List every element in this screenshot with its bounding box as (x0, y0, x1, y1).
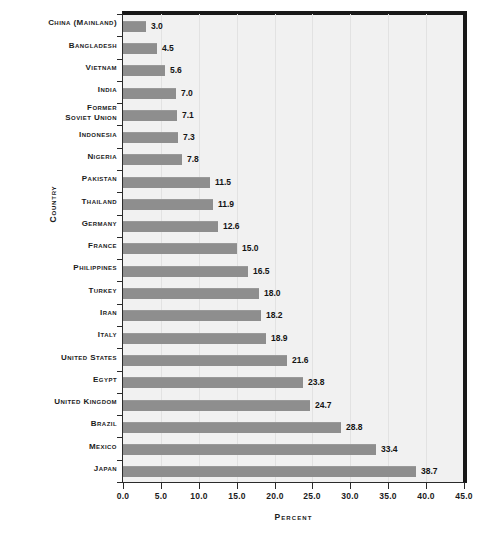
bar-value-label: 15.0 (242, 243, 259, 254)
y-axis-tick (117, 192, 123, 193)
x-axis-tick-label: 20.0 (255, 491, 295, 501)
x-axis-tick (275, 483, 276, 489)
gridline (237, 14, 238, 482)
x-axis-tick (350, 483, 351, 489)
category-label: United Kingdom (6, 397, 117, 407)
bar (123, 288, 259, 299)
category-label: India (6, 85, 117, 95)
y-axis-tick (117, 460, 123, 461)
y-axis-tick (117, 170, 123, 171)
plot-area: 3.04.55.67.07.17.37.811.511.912.615.016.… (123, 14, 464, 482)
bar-value-label: 18.0 (264, 288, 281, 299)
y-axis-tick (117, 148, 123, 149)
bar (123, 444, 376, 455)
bar-value-label: 3.0 (151, 21, 163, 32)
bar-value-label: 7.3 (183, 132, 195, 143)
y-axis-tick (117, 103, 123, 104)
bar (123, 88, 176, 99)
bar (123, 21, 146, 32)
category-label: Former Soviet Union (6, 103, 117, 122)
bar-value-label: 18.2 (266, 310, 283, 321)
category-label: Italy (6, 330, 117, 340)
x-axis-tick-label: 35.0 (368, 491, 408, 501)
y-axis-tick (117, 36, 123, 37)
x-axis-tick-label: 0.0 (103, 491, 143, 501)
bar-value-label: 38.7 (421, 466, 438, 477)
bar-chart: Country China (Mainland)BangladeshVietna… (0, 0, 481, 537)
category-label: Thailand (6, 197, 117, 207)
bar (123, 466, 416, 477)
bar (123, 221, 218, 232)
x-axis-tick (312, 483, 313, 489)
category-axis-labels: China (Mainland)BangladeshVietnamIndiaFo… (6, 12, 117, 482)
bar (123, 333, 266, 344)
y-axis-tick (117, 81, 123, 82)
x-axis-tick (237, 483, 238, 489)
category-label: Philippines (6, 263, 117, 273)
y-axis-tick (117, 415, 123, 416)
category-label: United States (6, 353, 117, 363)
category-label: Turkey (6, 286, 117, 296)
bar-value-label: 23.8 (308, 377, 325, 388)
category-label: Indonesia (6, 130, 117, 140)
bar-value-label: 7.0 (181, 88, 193, 99)
y-axis-tick (117, 437, 123, 438)
category-label: Nigeria (6, 152, 117, 162)
category-label: Brazil (6, 419, 117, 429)
category-label: France (6, 241, 117, 251)
category-label: Pakistan (6, 174, 117, 184)
y-axis-tick (117, 326, 123, 327)
bar-value-label: 7.8 (187, 154, 199, 165)
bar (123, 132, 178, 143)
bar (123, 400, 310, 411)
x-axis-tick-label: 15.0 (217, 491, 257, 501)
x-axis-tick-label: 10.0 (179, 491, 219, 501)
bar-value-label: 33.4 (381, 444, 398, 455)
x-axis-tick (464, 483, 465, 489)
gridline (350, 14, 351, 482)
y-axis-tick (117, 371, 123, 372)
bar (123, 355, 287, 366)
bar-value-label: 24.7 (315, 400, 332, 411)
x-axis-tick-label: 30.0 (330, 491, 370, 501)
bar (123, 422, 341, 433)
bar-value-label: 4.5 (162, 43, 174, 54)
y-axis-tick (117, 393, 123, 394)
bar (123, 243, 237, 254)
bar-value-label: 16.5 (253, 266, 270, 277)
bar-value-label: 21.6 (292, 355, 309, 366)
y-axis-tick (117, 59, 123, 60)
x-axis-tick-label: 25.0 (292, 491, 332, 501)
category-label: Mexico (6, 442, 117, 452)
bar-value-label: 28.8 (346, 422, 363, 433)
bar (123, 110, 177, 121)
bar (123, 154, 182, 165)
category-label: Bangladesh (6, 41, 117, 51)
y-axis-tick (117, 237, 123, 238)
bar-value-label: 12.6 (223, 221, 240, 232)
y-axis-tick (117, 215, 123, 216)
bar-value-label: 18.9 (271, 333, 288, 344)
gridline (388, 14, 389, 482)
category-label: Germany (6, 219, 117, 229)
bar (123, 310, 261, 321)
x-axis-tick (388, 483, 389, 489)
x-axis-tick (161, 483, 162, 489)
x-axis-title: Percent (123, 512, 464, 522)
gridline (275, 14, 276, 482)
y-axis-tick (117, 281, 123, 282)
gridline (426, 14, 427, 482)
bar (123, 199, 213, 210)
bar-value-label: 7.1 (182, 110, 194, 121)
y-axis-tick (117, 304, 123, 305)
x-axis-tick (123, 483, 124, 489)
category-label: China (Mainland) (6, 18, 117, 28)
category-label: Egypt (6, 375, 117, 385)
bar (123, 43, 157, 54)
category-label: Iran (6, 308, 117, 318)
bar-value-label: 5.6 (170, 65, 182, 76)
bar (123, 377, 303, 388)
y-axis-tick (117, 259, 123, 260)
y-axis-tick (117, 14, 123, 15)
x-axis-tick-label: 40.0 (406, 491, 446, 501)
